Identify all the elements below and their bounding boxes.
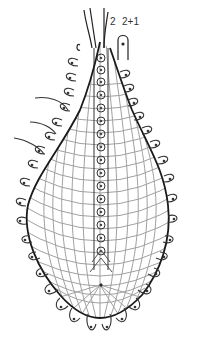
apex-structures [77,8,128,60]
leaf-diagram [0,0,198,353]
label-2: 2 [110,17,116,27]
label-2plus1: 2+1 [122,17,139,27]
diagram-canvas: 2 2+1 [0,0,198,353]
central-column [90,48,112,286]
